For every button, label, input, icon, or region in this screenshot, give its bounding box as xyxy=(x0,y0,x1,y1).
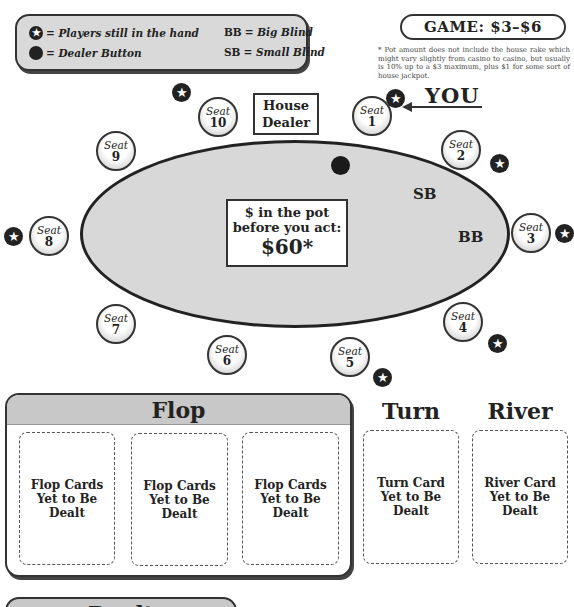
you-arrow-icon xyxy=(407,106,482,108)
pot-line-1: $ in the pot xyxy=(228,205,346,220)
flop-card-1[interactable]: Flop Cards Yet to Be Dealt xyxy=(19,432,115,565)
legend-sb-row: SB = Small Blind xyxy=(224,46,325,58)
pot-footnote: * Pot amount does not include the house … xyxy=(378,46,570,80)
dealer-button-icon xyxy=(29,46,43,60)
seat-9[interactable]: Seat 9 xyxy=(96,131,136,171)
star-icon: ★ xyxy=(29,26,43,40)
legend-bb-row: BB = Big Blind xyxy=(224,26,313,38)
flop-title: Flop xyxy=(7,395,350,425)
turn-title: Turn xyxy=(363,398,459,424)
legend-sb-text: = Small Blind xyxy=(243,46,324,58)
legend-star-text: = Players still in the hand xyxy=(46,27,199,39)
legend-star-row: ★ = Players still in the hand xyxy=(29,26,199,40)
river-title: River xyxy=(472,398,568,424)
star-icon-seat-2: ★ xyxy=(490,154,509,173)
flop-card-3[interactable]: Flop Cards Yet to Be Dealt xyxy=(242,432,339,565)
legend-bb-key: BB xyxy=(224,26,242,38)
star-icon-seat-3: ★ xyxy=(555,224,574,243)
star-icon-seat-1: ★ xyxy=(386,89,405,108)
seat-2[interactable]: Seat 2 xyxy=(441,130,481,170)
house-dealer-label: House Dealer xyxy=(253,93,319,135)
seat-5[interactable]: Seat 5 xyxy=(330,337,370,377)
bottom-section-header: Dealt xyxy=(5,597,237,607)
flop-card-2[interactable]: Flop Cards Yet to Be Dealt xyxy=(131,433,228,566)
pot-box: $ in the pot before you act: $60* xyxy=(226,199,348,267)
you-label: YOU xyxy=(425,83,480,108)
seat-10[interactable]: Seat 10 xyxy=(198,97,238,137)
legend-panel: ★ = Players still in the hand = Dealer B… xyxy=(15,14,308,71)
seat-4[interactable]: Seat 4 xyxy=(443,302,483,342)
star-icon-seat-10: ★ xyxy=(172,83,191,102)
dealer-button xyxy=(331,156,350,175)
sb-marker: SB xyxy=(413,185,437,203)
pot-line-2: before you act: xyxy=(228,220,346,235)
legend-sb-key: SB xyxy=(224,46,240,58)
legend-dot-row: = Dealer Button xyxy=(29,46,142,60)
flop-panel: Flop Flop Cards Yet to Be Dealt Flop Car… xyxy=(5,393,352,577)
legend-dot-text: = Dealer Button xyxy=(46,47,142,59)
seat-6[interactable]: Seat 6 xyxy=(207,335,247,375)
river-card[interactable]: River Card Yet to Be Dealt xyxy=(472,430,568,564)
pot-amount: $60* xyxy=(228,235,346,259)
seat-3[interactable]: Seat 3 xyxy=(511,213,551,253)
bb-marker: BB xyxy=(458,228,483,246)
star-icon-seat-4: ★ xyxy=(488,334,507,353)
star-icon-seat-5: ★ xyxy=(373,368,392,387)
star-icon-seat-8: ★ xyxy=(4,227,23,246)
legend-bb-text: = Big Blind xyxy=(245,26,313,38)
seat-8[interactable]: Seat 8 xyxy=(29,216,69,256)
bottom-section-title: Dealt xyxy=(88,601,154,607)
game-title: GAME: $3–$6 xyxy=(400,14,566,40)
seat-7[interactable]: Seat 7 xyxy=(96,304,136,344)
turn-card[interactable]: Turn Card Yet to Be Dealt xyxy=(363,430,459,564)
